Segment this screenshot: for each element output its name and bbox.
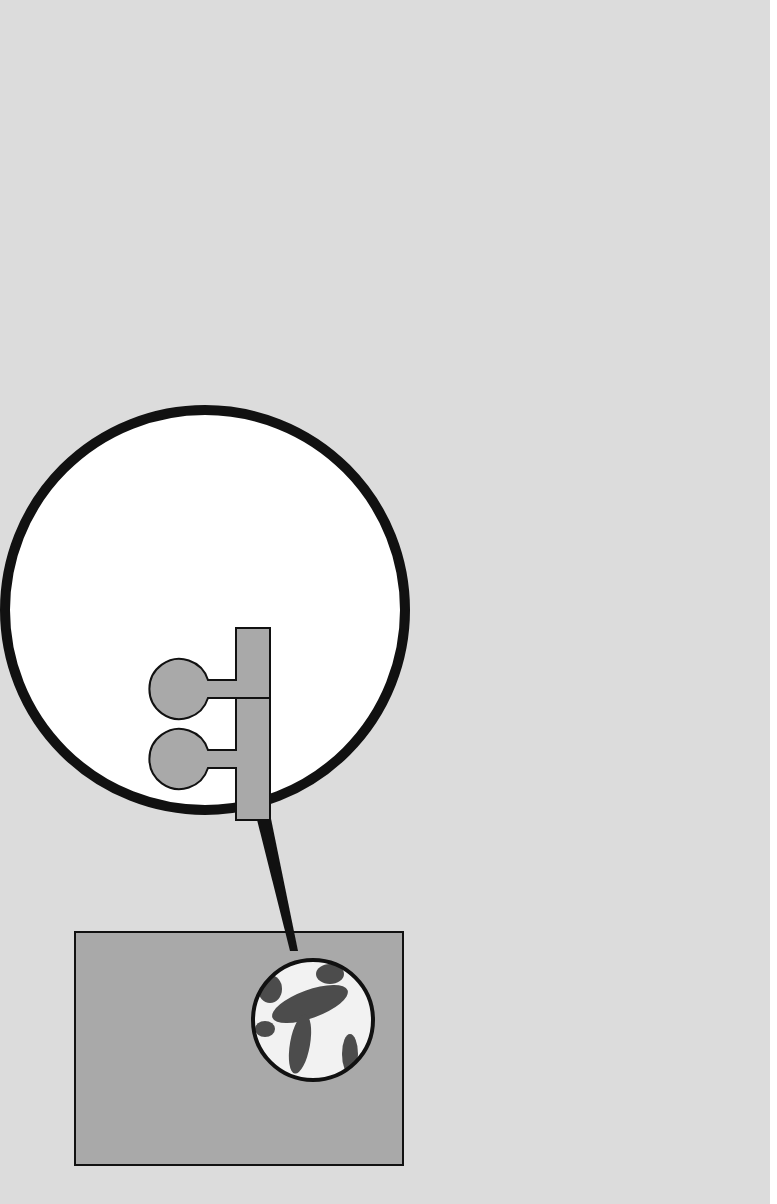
magnifier-circle (5, 410, 405, 820)
micrograph-circle (253, 960, 373, 1080)
energy-transduction-figure (0, 0, 777, 1204)
